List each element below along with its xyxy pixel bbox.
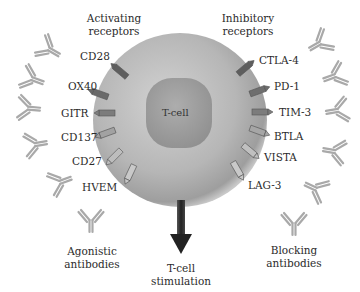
- t-cell-stimulation-label: T-cell stimulation: [145, 262, 217, 287]
- antibody-icon: [46, 166, 75, 197]
- antibody-icon: [18, 64, 47, 95]
- receptor-label-ctla-4: CTLA-4: [259, 54, 299, 66]
- receptor-label-btla: BTLA: [274, 130, 303, 142]
- antibody-icon: [321, 137, 347, 165]
- antibody-icon: [324, 96, 350, 124]
- antibody-icon: [320, 61, 349, 92]
- activating-receptors-header: Activating receptors: [78, 12, 150, 37]
- t-cell-label: T-cell: [162, 107, 189, 118]
- receptor-label-cd137: CD137: [61, 131, 98, 143]
- receptor-label-ox40: OX40: [68, 80, 97, 92]
- receptor-label-lag-3: LAG-3: [248, 179, 281, 191]
- antibody-icon: [304, 27, 336, 60]
- antibody-icon: [34, 33, 66, 66]
- receptor-label-tim-3: TIM-3: [279, 106, 311, 118]
- receptor-label-cd27: CD27: [72, 155, 102, 167]
- antibody-icon: [23, 130, 49, 158]
- receptor-label-hvem: HVEM: [82, 181, 117, 193]
- blocking-antibodies-label: Blocking antibodies: [258, 244, 330, 269]
- inhibitory-receptors-header: Inhibitory receptors: [212, 12, 284, 37]
- receptor-label-pd-1: PD-1: [274, 80, 300, 92]
- receptor-label-gitr: GITR: [61, 107, 88, 119]
- agonistic-antibodies-label: Agonistic antibodies: [56, 245, 128, 270]
- antibody-icon: [282, 213, 307, 235]
- receptor-label-cd28: CD28: [80, 50, 110, 62]
- stimulation-arrow-icon: [170, 200, 192, 254]
- antibody-icon: [79, 210, 104, 232]
- receptor-label-vista: VISTA: [264, 151, 297, 163]
- t-cell: [93, 33, 267, 207]
- antibody-icon: [17, 95, 41, 122]
- antibody-icon: [300, 173, 331, 205]
